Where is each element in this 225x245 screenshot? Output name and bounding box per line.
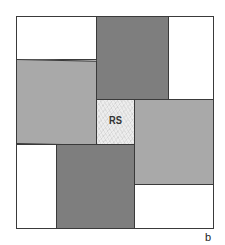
top-left-white-piece xyxy=(16,16,97,60)
bottom-dark-piece xyxy=(56,144,135,229)
top-dark-piece xyxy=(96,16,169,100)
figure-label: b xyxy=(205,231,211,243)
top-right-white-piece xyxy=(168,16,214,100)
bottom-right-white-piece xyxy=(134,184,214,229)
bottom-left-white-piece xyxy=(16,144,57,229)
center-label: RS xyxy=(100,114,131,126)
left-mid-piece xyxy=(16,59,97,146)
right-mid-piece xyxy=(134,99,214,185)
center-rs-piece: RS xyxy=(96,99,135,145)
